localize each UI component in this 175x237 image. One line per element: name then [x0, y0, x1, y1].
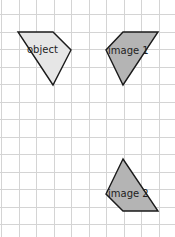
object-label: object	[27, 44, 58, 55]
transformation-diagram: object image 1 image 2	[0, 0, 175, 237]
object-shape	[18, 32, 71, 85]
image-1-label: image 1	[108, 45, 149, 56]
image-2-label: image 2	[108, 188, 149, 199]
image-2-shape	[106, 159, 158, 211]
image-1-shape	[106, 32, 158, 85]
